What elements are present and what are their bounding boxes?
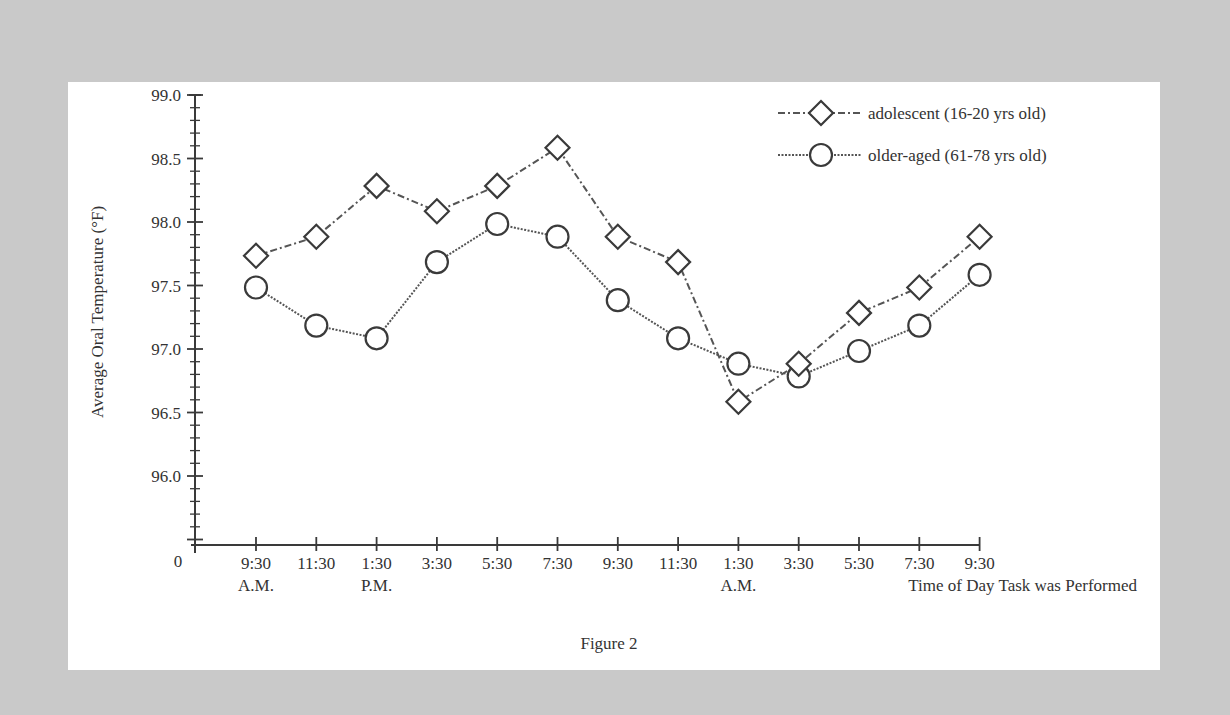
y-tick-label: 99.0 xyxy=(151,86,181,105)
circle-marker xyxy=(245,277,267,299)
diamond-marker xyxy=(968,225,992,249)
legend-label: adolescent (16-20 yrs old) xyxy=(868,104,1046,123)
diamond-marker xyxy=(606,225,630,249)
y-tick-label: 98.0 xyxy=(151,213,181,232)
x-tick-label: 5:30 xyxy=(844,554,874,573)
x-sublabel: A.M. xyxy=(720,576,756,595)
x-tick-label: 1:30 xyxy=(723,554,753,573)
circle-marker xyxy=(305,315,327,337)
y-tick-label: 97.5 xyxy=(151,277,181,296)
x-tick-label: 5:30 xyxy=(482,554,512,573)
diamond-marker xyxy=(809,101,833,125)
y-tick-label: 96.5 xyxy=(151,404,181,423)
circle-marker xyxy=(607,289,629,311)
circle-marker xyxy=(547,226,569,248)
x-sublabel: P.M. xyxy=(361,576,392,595)
y-tick-label: 97.0 xyxy=(151,340,181,359)
y-tick-label: 98.5 xyxy=(151,150,181,169)
circle-marker xyxy=(969,264,991,286)
y-axis-title: Average Oral Temperature (°F) xyxy=(88,206,107,418)
origin-label: 0 xyxy=(174,552,183,571)
diamond-marker xyxy=(485,174,509,198)
x-tick-label: 9:30 xyxy=(603,554,633,573)
series-adolescent xyxy=(244,136,992,414)
diamond-marker xyxy=(907,276,931,300)
circle-marker xyxy=(366,327,388,349)
x-tick-label: 9:30 xyxy=(964,554,994,573)
circle-marker xyxy=(810,144,832,166)
diamond-marker xyxy=(244,244,268,268)
diamond-marker xyxy=(546,136,570,160)
legend-label: older-aged (61-78 yrs old) xyxy=(868,146,1047,165)
diamond-marker xyxy=(304,225,328,249)
figure-caption: Figure 2 xyxy=(580,634,637,653)
x-sublabel: A.M. xyxy=(238,576,274,595)
x-tick-label: 3:30 xyxy=(422,554,452,573)
x-tick-label: 7:30 xyxy=(542,554,572,573)
x-tick-label: 11:30 xyxy=(297,554,335,573)
circle-marker xyxy=(727,353,749,375)
circle-marker xyxy=(486,213,508,235)
diamond-marker xyxy=(666,250,690,274)
x-tick-label: 1:30 xyxy=(361,554,391,573)
circle-marker xyxy=(426,251,448,273)
x-axis-title: Time of Day Task was Performed xyxy=(908,576,1137,595)
circle-marker xyxy=(908,315,930,337)
circle-marker xyxy=(848,340,870,362)
x-tick-label: 11:30 xyxy=(659,554,697,573)
x-tick-label: 7:30 xyxy=(904,554,934,573)
diamond-marker xyxy=(425,199,449,223)
line-chart: 99.098.598.097.597.096.596.009:3011:301:… xyxy=(0,0,1230,715)
circle-marker xyxy=(667,327,689,349)
x-tick-label: 9:30 xyxy=(241,554,271,573)
diamond-marker xyxy=(726,390,750,414)
diamond-marker xyxy=(847,301,871,325)
x-tick-label: 3:30 xyxy=(784,554,814,573)
legend: adolescent (16-20 yrs old)older-aged (61… xyxy=(778,101,1047,166)
diamond-marker xyxy=(365,174,389,198)
y-tick-label: 96.0 xyxy=(151,467,181,486)
